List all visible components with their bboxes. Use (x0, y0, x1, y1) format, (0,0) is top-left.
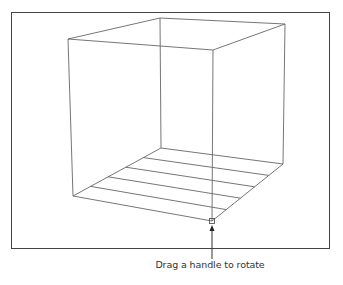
arrow-pointer-icon (210, 225, 215, 259)
cube-scene (0, 0, 343, 285)
cube-edge-right (283, 24, 285, 164)
cube-top-face (68, 18, 285, 50)
cube-floor (73, 148, 283, 221)
cube-edge-left (68, 39, 73, 196)
floor-grid (91, 158, 269, 210)
caption-label: Drag a handle to rotate (150, 259, 270, 270)
cube-edge-back (160, 18, 161, 148)
wireframe-cube (68, 18, 285, 221)
cube-edge-front (212, 50, 213, 221)
